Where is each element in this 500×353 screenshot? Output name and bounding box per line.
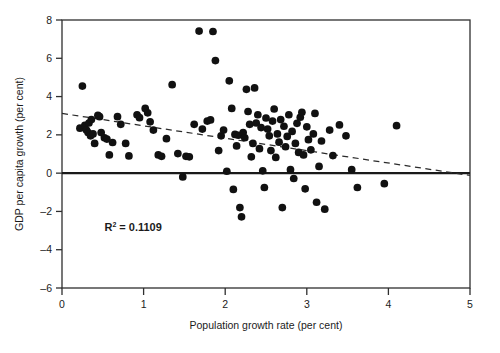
data-point xyxy=(313,198,321,206)
data-point xyxy=(236,204,244,212)
data-point xyxy=(311,110,319,118)
data-point xyxy=(109,139,117,147)
data-point xyxy=(247,153,255,161)
data-point xyxy=(254,111,262,119)
data-point xyxy=(150,126,158,134)
data-point xyxy=(158,152,166,160)
data-point xyxy=(309,130,317,138)
y-axis-title: GDP per capita growth (per cent) xyxy=(13,77,25,231)
data-point xyxy=(207,116,215,124)
data-point xyxy=(251,84,259,92)
data-point xyxy=(292,140,300,148)
data-point xyxy=(259,167,267,175)
data-point xyxy=(288,128,296,136)
data-point xyxy=(163,135,171,143)
data-point xyxy=(241,134,249,142)
x-axis-title: Population growth rate (per cent) xyxy=(190,319,343,331)
data-point xyxy=(282,143,290,151)
data-point xyxy=(136,114,144,122)
data-point xyxy=(287,166,295,174)
data-point xyxy=(264,125,272,133)
data-point xyxy=(223,167,231,175)
data-point xyxy=(290,175,298,183)
data-point xyxy=(354,184,362,192)
x-tick-label: 1 xyxy=(141,298,147,310)
data-point xyxy=(88,116,96,124)
data-point xyxy=(91,140,99,148)
x-tick-label: 2 xyxy=(222,298,228,310)
data-point xyxy=(144,109,152,117)
data-point xyxy=(269,117,277,125)
data-point xyxy=(274,130,282,138)
y-tick-label: 2 xyxy=(46,128,52,140)
scatter-plot-figure: –6–4–202468 012345 Population growth rat… xyxy=(0,0,500,353)
data-point xyxy=(114,113,122,121)
data-point xyxy=(315,163,323,171)
chart-canvas: –6–4–202468 012345 Population growth rat… xyxy=(0,0,500,353)
data-point xyxy=(348,166,356,174)
data-point xyxy=(146,118,154,126)
data-point xyxy=(307,146,315,154)
data-point xyxy=(96,113,104,121)
data-point xyxy=(125,152,133,160)
data-point xyxy=(215,147,223,155)
chart-background xyxy=(0,0,500,353)
data-point xyxy=(195,27,203,35)
data-point xyxy=(79,82,87,90)
data-point xyxy=(122,140,130,148)
data-point xyxy=(393,122,401,130)
y-tick-label: 0 xyxy=(46,167,52,179)
data-point xyxy=(89,130,97,138)
data-point xyxy=(174,150,182,158)
x-tick-label: 3 xyxy=(304,298,310,310)
data-point xyxy=(267,147,275,155)
data-point xyxy=(303,123,311,131)
y-tick-label: –4 xyxy=(40,243,52,255)
data-point xyxy=(265,132,273,140)
data-point xyxy=(329,152,337,160)
data-point xyxy=(285,111,293,119)
data-point xyxy=(209,28,217,36)
data-point xyxy=(277,116,285,124)
data-point xyxy=(270,105,278,113)
x-tick-label: 5 xyxy=(467,298,473,310)
data-point xyxy=(238,213,246,221)
data-point xyxy=(298,108,306,116)
y-tick-label: –6 xyxy=(40,282,52,294)
data-point xyxy=(249,140,257,148)
data-point xyxy=(212,57,220,65)
data-point xyxy=(380,180,388,188)
data-point xyxy=(190,120,198,128)
data-point xyxy=(168,81,176,89)
data-point xyxy=(261,184,269,192)
data-point xyxy=(117,120,125,128)
data-point xyxy=(301,185,309,193)
data-point xyxy=(105,151,113,159)
data-point xyxy=(185,153,193,161)
x-tick-label: 4 xyxy=(385,298,391,310)
data-point xyxy=(198,125,206,133)
data-point xyxy=(326,126,334,134)
data-point xyxy=(336,121,344,129)
data-point xyxy=(179,173,187,181)
data-point xyxy=(256,145,264,153)
data-point xyxy=(300,151,308,159)
data-point xyxy=(280,122,288,130)
data-point xyxy=(257,124,265,132)
data-point xyxy=(225,77,233,85)
data-point xyxy=(243,85,251,93)
y-tick-label: 6 xyxy=(46,52,52,64)
data-point xyxy=(321,205,329,213)
data-point xyxy=(246,120,254,128)
data-point xyxy=(244,108,252,116)
data-point xyxy=(272,154,280,162)
y-tick-label: –2 xyxy=(40,205,52,217)
x-tick-label: 0 xyxy=(59,298,65,310)
data-point xyxy=(233,142,241,150)
data-point xyxy=(342,132,350,140)
data-point xyxy=(228,105,236,113)
data-point xyxy=(278,204,286,212)
data-point xyxy=(230,186,238,194)
data-point xyxy=(275,138,283,146)
data-point xyxy=(318,137,326,145)
